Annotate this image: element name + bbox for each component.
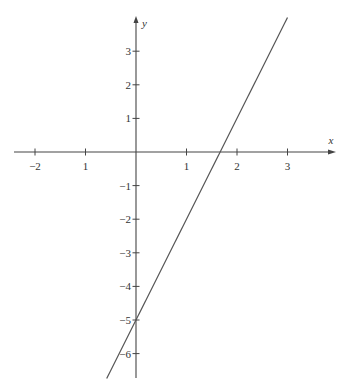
y-tick-label: 1 <box>126 112 132 124</box>
y-axis-label: y <box>141 17 147 29</box>
x-axis-arrow-icon <box>328 150 336 155</box>
y-tick-label: −4 <box>119 280 131 292</box>
y-tick-label: −5 <box>119 314 131 326</box>
x-tick-label: 1 <box>184 160 190 172</box>
series-line <box>107 18 288 379</box>
axes <box>14 16 336 378</box>
x-tick-label: 2 <box>234 160 240 172</box>
y-tick-label: 3 <box>126 45 132 57</box>
y-tick-label: 2 <box>126 79 132 91</box>
ticks <box>35 51 288 353</box>
x-tick-label: −2 <box>29 160 41 172</box>
line-chart: −21123321−1−2−3−4−5−6xy <box>0 0 340 387</box>
y-tick-label: −2 <box>119 213 131 225</box>
x-axis-label: x <box>328 134 334 146</box>
labels: −21123321−1−2−3−4−5−6xy <box>29 17 333 360</box>
y-tick-label: −6 <box>119 348 131 360</box>
y-tick-label: −3 <box>119 247 131 259</box>
y-axis-arrow-icon <box>134 16 139 23</box>
x-tick-label: 1 <box>83 160 89 172</box>
y-tick-label: −1 <box>119 180 131 192</box>
x-tick-label: 3 <box>285 160 291 172</box>
series <box>107 18 288 379</box>
